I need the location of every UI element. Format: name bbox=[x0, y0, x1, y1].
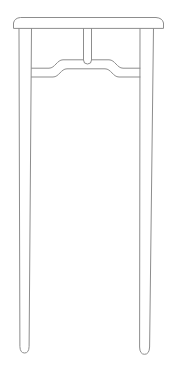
humpback-stretcher-bottom-edge bbox=[32, 69, 141, 77]
table-line-drawing bbox=[0, 0, 173, 370]
tabletop bbox=[14, 18, 164, 29]
center-post bbox=[84, 27, 92, 64]
furniture-illustration bbox=[0, 0, 173, 370]
right-leg bbox=[140, 28, 154, 354]
left-leg bbox=[19, 28, 32, 353]
